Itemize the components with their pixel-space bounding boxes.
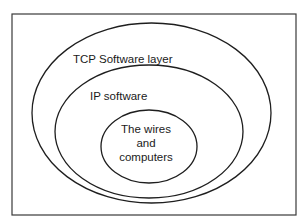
diagram-frame — [12, 14, 296, 215]
physical-layer-label-line-3: computers — [119, 151, 173, 163]
physical-layer-label-line-2: and — [136, 137, 155, 149]
ip-layer-label: IP software — [90, 90, 147, 102]
tcp-layer-ellipse — [32, 23, 271, 203]
tcp-layer-label: TCP Software layer — [73, 53, 173, 65]
physical-layer-label-line-1: The wires — [121, 123, 171, 135]
layer-diagram: TCP Software layer IP software The wires… — [0, 0, 307, 224]
